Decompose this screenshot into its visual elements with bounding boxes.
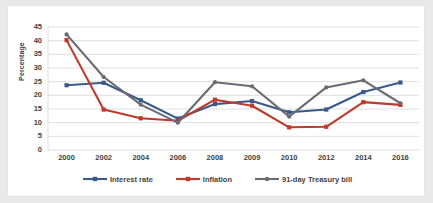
- line-chart-svg: [8, 6, 426, 198]
- data-point: [176, 121, 180, 125]
- legend-item-1[interactable]: Interest rate: [82, 174, 153, 184]
- data-point: [139, 103, 143, 107]
- legend-swatch-icon: [82, 174, 108, 184]
- chart-legend: Interest rateInflation91-day Treasury bi…: [8, 174, 426, 184]
- data-point: [398, 80, 402, 84]
- data-point: [361, 100, 365, 104]
- data-point: [287, 115, 291, 119]
- data-point: [361, 78, 365, 82]
- data-point: [64, 38, 68, 42]
- data-point: [324, 125, 328, 129]
- plot-area: Percentage 051015202530354045 2000200220…: [8, 6, 426, 198]
- data-point: [324, 85, 328, 89]
- data-point: [64, 83, 68, 87]
- data-point: [287, 125, 291, 129]
- data-point: [213, 80, 217, 84]
- legend-item-2[interactable]: Inflation: [175, 174, 232, 184]
- data-point: [250, 99, 254, 103]
- data-point: [287, 110, 291, 114]
- data-point: [361, 90, 365, 94]
- data-point: [250, 84, 254, 88]
- data-point: [398, 101, 402, 105]
- chart-container: Percentage 051015202530354045 2000200220…: [7, 5, 425, 197]
- legend-label: 91-day Treasury bill: [282, 175, 352, 184]
- data-point: [250, 104, 254, 108]
- data-point: [102, 81, 106, 85]
- data-point: [324, 107, 328, 111]
- data-point: [102, 75, 106, 79]
- data-point: [64, 32, 68, 36]
- data-point: [139, 116, 143, 120]
- legend-label: Interest rate: [110, 175, 153, 184]
- legend-swatch-icon: [254, 174, 280, 184]
- data-point: [213, 102, 217, 106]
- data-point: [139, 98, 143, 102]
- legend-swatch-icon: [175, 174, 201, 184]
- data-point: [102, 107, 106, 111]
- legend-item-3[interactable]: 91-day Treasury bill: [254, 174, 352, 184]
- legend-label: Inflation: [203, 175, 232, 184]
- data-point: [213, 98, 217, 102]
